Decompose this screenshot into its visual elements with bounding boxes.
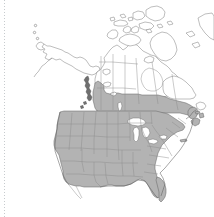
mexico-edge [69, 185, 82, 199]
cape-breton-shaded [199, 113, 204, 118]
bering-island-1 [34, 24, 37, 27]
victoria-island [119, 34, 141, 46]
alaska-panhandle-shaded [84, 76, 92, 101]
arctic-islet-3 [110, 17, 115, 21]
panhandle-islet-2 [80, 105, 84, 109]
somerset-island [131, 26, 139, 33]
prince-of-wales-island [123, 26, 131, 33]
arctic-islet-5 [157, 24, 163, 28]
axel-heiberg-island [133, 11, 145, 20]
bering-island-2 [33, 31, 36, 34]
banks-island [107, 30, 118, 39]
arctic-islet-6 [167, 21, 173, 25]
northern-quebec-labrador [163, 76, 196, 99]
alaska-peninsula [34, 58, 52, 77]
bering-island-3 [36, 37, 39, 40]
melville-island [114, 20, 128, 26]
range-map-figure: North America distribution map Present A… [0, 0, 214, 217]
greenland-edge [198, 13, 214, 40]
devon-island [139, 22, 154, 30]
greenland-islet-2 [192, 42, 200, 48]
north-america-map [0, 0, 214, 217]
left-dotted-rule [4, 0, 5, 217]
greenland-islet [186, 31, 195, 37]
arctic-islet-2 [120, 14, 126, 18]
lake-michigan [133, 127, 139, 142]
arctic-islet-4 [146, 29, 152, 33]
arctic-islet-1 [128, 17, 133, 21]
newfoundland [196, 102, 206, 110]
alaska-outline [42, 44, 100, 75]
ellesmere-island [146, 6, 165, 21]
panhandle-islet-1 [83, 101, 87, 105]
